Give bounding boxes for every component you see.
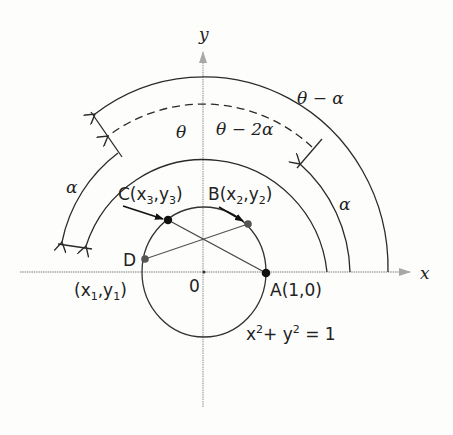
point-A-label: A(1,0) (270, 280, 322, 300)
theta-label: θ (176, 122, 186, 142)
y-axis-label: y (198, 24, 209, 44)
unit-circle-diagram: y x 0 θ θ − α θ − 2α α α A(1,0) D C(x3,y… (0, 0, 453, 435)
alpha-right-arc (300, 164, 350, 272)
point-C-label: C(x3,y3) (118, 184, 183, 207)
point-B-label: B(x2,y2) (208, 184, 272, 207)
alpha-right-label: α (339, 194, 351, 214)
right-tick (297, 139, 322, 168)
alpha-left-arc (62, 153, 118, 242)
point-A (262, 269, 271, 278)
point-D-label: D (123, 250, 136, 270)
origin-dot (203, 271, 206, 274)
point-D (141, 255, 149, 263)
theta-minus-alpha-label: θ − α (297, 88, 344, 108)
alpha-left-label: α (66, 177, 78, 197)
point-C (164, 216, 172, 224)
theta-minus-2alpha-arc (108, 104, 312, 147)
x-axis-label: x (420, 263, 430, 283)
point-D-coords-label: (x1,y1) (74, 280, 127, 303)
pointer-arrow-B (219, 207, 243, 221)
point-B (244, 220, 252, 228)
theta-minus-alpha-arc (95, 77, 388, 272)
origin-label: 0 (189, 276, 200, 296)
pointer-arrow-C (123, 206, 163, 219)
theta-minus-2alpha-label: θ − 2α (216, 119, 274, 139)
circle-equation: x2+ y2 = 1 (246, 323, 336, 344)
diagram-canvas: y x 0 θ θ − α θ − 2α α α A(1,0) D C(x3,y… (0, 0, 453, 435)
left-tick (91, 112, 122, 157)
chord-DB (145, 224, 248, 259)
